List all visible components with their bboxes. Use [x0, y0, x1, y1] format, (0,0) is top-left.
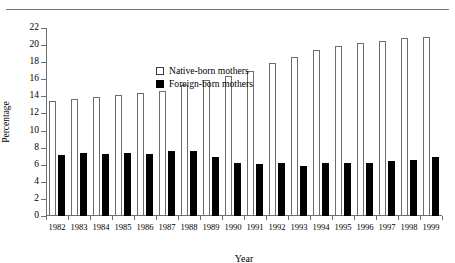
bar-group [222, 28, 244, 216]
y-tick-label: 0 [34, 211, 39, 221]
x-tick-label: 1988 [180, 222, 197, 232]
x-tick-label: 1987 [158, 222, 175, 232]
y-tick-label: 6 [34, 160, 39, 170]
y-tick-label: 10 [30, 126, 40, 136]
bar-group [112, 28, 134, 216]
y-tick-label: 4 [34, 177, 39, 187]
bar-native-born [423, 37, 430, 216]
bar-group [156, 28, 178, 216]
bar-foreign-born [102, 154, 109, 216]
bar-group [310, 28, 332, 216]
bar-foreign-born [80, 153, 87, 216]
x-tick-mark [134, 216, 135, 220]
y-tick-label: 14 [30, 92, 40, 102]
legend-item-native: Native-born mothers [156, 64, 253, 77]
x-tick-label: 1996 [356, 222, 373, 232]
bar-group [332, 28, 354, 216]
bar-group [376, 28, 398, 216]
legend-label-native: Native-born mothers [169, 64, 249, 77]
bar-foreign-born [256, 164, 263, 216]
bar-foreign-born [58, 155, 65, 216]
figure-canvas: 0246810121416182022 Percentage 198219831… [0, 0, 455, 263]
x-tick-mark [354, 216, 355, 220]
y-axis-title: Percentage [1, 101, 11, 143]
bar-foreign-born [366, 163, 373, 216]
bar-native-born [225, 76, 232, 216]
bar-native-born [181, 85, 188, 216]
x-tick-label: 1983 [70, 222, 87, 232]
y-tick-label: 8 [34, 143, 39, 153]
x-tick-label: 1998 [400, 222, 417, 232]
y-tick-label: 20 [30, 40, 40, 50]
x-tick-mark [222, 216, 223, 220]
bar-native-born [357, 43, 364, 216]
y-tick-label: 12 [30, 109, 40, 119]
bar-group [134, 28, 156, 216]
x-tick-label: 1991 [246, 222, 263, 232]
bar-foreign-born [410, 160, 417, 216]
bar-native-born [159, 91, 166, 216]
bar-foreign-born [146, 154, 153, 216]
bar-native-born [335, 46, 342, 216]
x-tick-mark [332, 216, 333, 220]
bar-native-born [49, 101, 56, 216]
bar-foreign-born [168, 151, 175, 216]
x-tick-mark [420, 216, 421, 220]
x-tick-label: 1994 [312, 222, 329, 232]
x-tick-label: 1986 [136, 222, 153, 232]
x-tick-mark [244, 216, 245, 220]
legend-swatch-native-icon [156, 67, 164, 75]
x-tick-mark [266, 216, 267, 220]
bar-foreign-born [190, 151, 197, 216]
bar-group [68, 28, 90, 216]
x-tick-mark [376, 216, 377, 220]
bar-group [266, 28, 288, 216]
bar-group [354, 28, 376, 216]
bar-groups [46, 28, 442, 216]
bar-native-born [247, 71, 254, 216]
x-tick-mark [288, 216, 289, 220]
x-tick-label: 1995 [334, 222, 351, 232]
x-tick-label: 1982 [48, 222, 65, 232]
bar-group [46, 28, 68, 216]
plot-area: 0246810121416182022 Percentage 198219831… [46, 28, 442, 216]
x-tick-mark [200, 216, 201, 220]
bar-foreign-born [300, 166, 307, 216]
bar-native-born [269, 63, 276, 216]
bar-foreign-born [212, 157, 219, 216]
bar-group [288, 28, 310, 216]
x-tick-label: 1997 [378, 222, 395, 232]
bar-group [90, 28, 112, 216]
bar-foreign-born [432, 157, 439, 216]
x-tick-label: 1984 [92, 222, 109, 232]
bar-foreign-born [278, 163, 285, 216]
chart-legend: Native-born mothers Foreign-born mothers [156, 64, 253, 90]
bar-native-born [137, 93, 144, 216]
x-tick-mark [310, 216, 311, 220]
x-tick-mark [46, 216, 47, 220]
x-tick-mark [178, 216, 179, 220]
y-tick-label: 16 [30, 75, 40, 85]
x-tick-label: 1992 [268, 222, 285, 232]
bar-native-born [379, 41, 386, 216]
legend-swatch-foreign-icon [156, 80, 164, 88]
y-tick-label: 18 [30, 57, 40, 67]
bar-foreign-born [322, 163, 329, 216]
x-tick-label: 1990 [224, 222, 241, 232]
bar-group [420, 28, 442, 216]
bar-native-born [115, 95, 122, 216]
bar-foreign-born [388, 161, 395, 216]
bar-foreign-born [344, 163, 351, 216]
legend-label-foreign: Foreign-born mothers [169, 77, 253, 90]
bar-foreign-born [234, 163, 241, 216]
bar-group [398, 28, 420, 216]
y-tick-label: 2 [34, 194, 39, 204]
bar-native-born [313, 50, 320, 216]
x-tick-label: 1999 [422, 222, 439, 232]
x-tick-mark [398, 216, 399, 220]
x-tick-label: 1993 [290, 222, 307, 232]
x-tick-label: 1989 [202, 222, 219, 232]
top-horizontal-rule [6, 9, 449, 10]
legend-item-foreign: Foreign-born mothers [156, 77, 253, 90]
clipped-caption-text [0, 0, 455, 6]
